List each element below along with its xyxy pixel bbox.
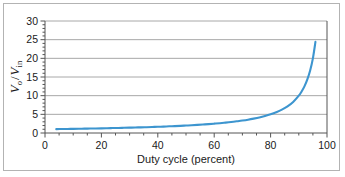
y-axis-title-sub1: o bbox=[14, 81, 24, 85]
y-tick-label-20: 20 bbox=[26, 52, 38, 64]
chart-container: 051015202530 020406080100 Duty cycle (pe… bbox=[0, 0, 345, 177]
y-tick-label-30: 30 bbox=[26, 15, 38, 27]
x-tick-label-100: 100 bbox=[318, 139, 336, 151]
y-tick-label-0: 0 bbox=[32, 127, 38, 139]
y-axis-title-slash: / bbox=[7, 76, 22, 80]
y-axis-title: Vo/Vin bbox=[7, 60, 24, 93]
x-axis-tick-labels: 020406080100 bbox=[42, 139, 336, 151]
x-tick-label-0: 0 bbox=[42, 139, 48, 151]
svg-text:Vo/Vin: Vo/Vin bbox=[7, 60, 24, 93]
y-axis-title-sub2: in bbox=[14, 60, 24, 67]
x-axis-title: Duty cycle (percent) bbox=[137, 153, 235, 165]
y-tick-label-10: 10 bbox=[26, 89, 38, 101]
y-axis-ticks bbox=[41, 21, 46, 133]
x-axis-ticks bbox=[45, 133, 327, 138]
x-tick-label-80: 80 bbox=[265, 139, 277, 151]
y-tick-label-25: 25 bbox=[26, 33, 38, 45]
x-tick-label-40: 40 bbox=[152, 139, 164, 151]
x-tick-label-20: 20 bbox=[96, 139, 108, 151]
chart-svg: 051015202530 020406080100 Duty cycle (pe… bbox=[0, 0, 345, 177]
y-tick-label-15: 15 bbox=[26, 71, 38, 83]
x-tick-label-60: 60 bbox=[208, 139, 220, 151]
y-axis-tick-labels: 051015202530 bbox=[26, 15, 38, 139]
y-tick-label-5: 5 bbox=[32, 108, 38, 120]
